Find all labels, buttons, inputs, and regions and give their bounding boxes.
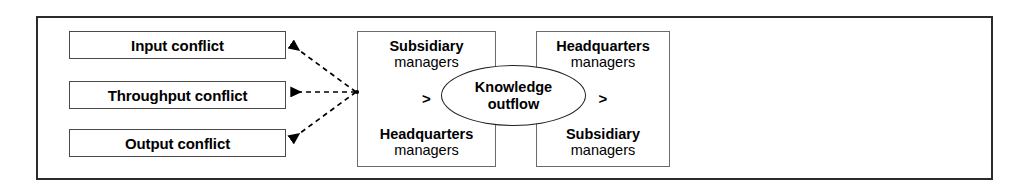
flow-source-line1: Subsidiary [389, 38, 463, 54]
ellipse-line1: Knowledge [475, 79, 552, 96]
flow-target-line2: managers [380, 142, 473, 158]
knowledge-outflow-ellipse: Knowledge outflow [441, 65, 586, 126]
conflict-box-output: Output conflict [69, 129, 286, 157]
flow-operator: > [599, 91, 608, 106]
flow-source-line2: managers [556, 54, 649, 70]
flow-operator: > [422, 91, 431, 106]
flow-target-line2: managers [566, 142, 640, 158]
diagram-figure: Input conflict Throughput conflict Outpu… [0, 0, 1023, 193]
conflict-box-input: Input conflict [69, 31, 286, 59]
flow-target-line1: Subsidiary [566, 126, 640, 142]
flow-target-line1: Headquarters [380, 126, 473, 142]
flow-target-party: Headquarters managers [380, 126, 473, 158]
conflict-box-throughput: Throughput conflict [69, 81, 286, 109]
ellipse-line2: outflow [488, 96, 540, 113]
flow-source-line1: Headquarters [556, 38, 649, 54]
flow-source-party: Headquarters managers [556, 38, 649, 70]
flow-source-line2: managers [389, 54, 463, 70]
flow-target-party: Subsidiary managers [566, 126, 640, 158]
flow-source-party: Subsidiary managers [389, 38, 463, 70]
